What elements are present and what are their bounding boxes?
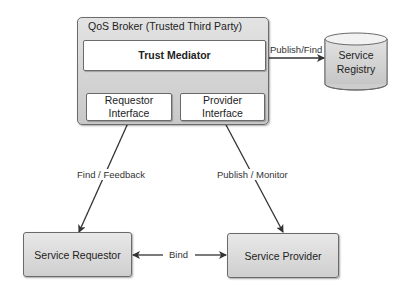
provider-interface-label-line1: Provider bbox=[202, 94, 243, 107]
qos-broker-title: QoS Broker (Trusted Third Party) bbox=[88, 20, 242, 32]
requestor-interface-label-line1: Requestor bbox=[105, 94, 153, 107]
requestor-interface-label-line2: Interface bbox=[105, 107, 153, 120]
trust-mediator-box: Trust Mediator bbox=[83, 40, 266, 71]
service-registry-label-line2: Registry bbox=[325, 62, 387, 76]
find-feedback-label: Find / Feedback bbox=[75, 169, 147, 180]
service-provider-label: Service Provider bbox=[244, 250, 321, 262]
publish-monitor-label: Publish / Monitor bbox=[215, 169, 290, 180]
requestor-interface-box: Requestor Interface bbox=[86, 93, 172, 121]
service-requestor-label: Service Requestor bbox=[34, 249, 120, 261]
service-requestor-box: Service Requestor bbox=[23, 232, 132, 277]
provider-interface-box: Provider Interface bbox=[180, 93, 265, 121]
publish-find-label: Publish/Find bbox=[270, 44, 322, 55]
bind-label: Bind bbox=[167, 249, 190, 260]
service-registry-label-line1: Service bbox=[325, 48, 387, 62]
service-provider-box: Service Provider bbox=[227, 233, 339, 278]
service-registry-label: Service Registry bbox=[325, 48, 387, 76]
trust-mediator-label: Trust Mediator bbox=[138, 49, 210, 62]
provider-interface-label-line2: Interface bbox=[202, 107, 243, 120]
